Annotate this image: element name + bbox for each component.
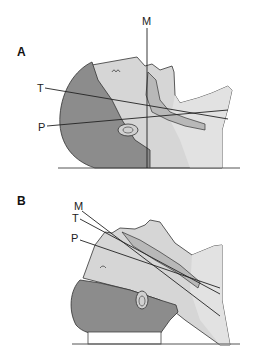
panel-a-axis-t-label: T [37, 82, 44, 94]
panel-a-axis-p-label: P [38, 121, 45, 133]
panel-b-label: B [17, 194, 26, 208]
panel-a: A M T P [17, 15, 240, 168]
panel-b: B M T P [17, 194, 240, 345]
panel-b-axis-m-label: M [74, 200, 83, 212]
panel-a-axis-m-label: M [142, 15, 151, 27]
panel-b-axis-p-label: P [71, 232, 78, 244]
panel-a-label: A [17, 45, 26, 59]
panel-a-ear [118, 124, 138, 136]
airway-axes-diagram: A M T P B [0, 0, 261, 353]
panel-b-head-pad [88, 332, 161, 344]
panel-b-axis-t-label: T [72, 212, 79, 224]
